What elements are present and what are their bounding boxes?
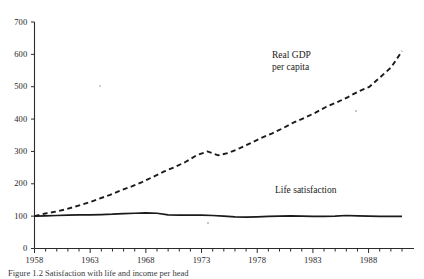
y-axis-tick-label: 200 <box>0 178 28 188</box>
series-line-real-gdp-per-capita <box>35 51 403 216</box>
y-axis-tick-label: 400 <box>0 114 28 124</box>
x-axis-tick-label: 1958 <box>13 255 57 265</box>
x-axis-tick-label: 1983 <box>291 255 335 265</box>
chart-axes <box>31 22 414 253</box>
figure-caption-label: Figure 1.2 <box>8 268 43 278</box>
x-axis-tick-label: 1968 <box>124 255 168 265</box>
figure-caption: Figure 1.2 Satisfaction with life and in… <box>8 268 418 278</box>
x-axis-tick-label: 1988 <box>347 255 391 265</box>
annotation-real-gdp-line2: per capita <box>272 62 311 74</box>
chart-plot-area <box>0 0 424 279</box>
annotation-real-gdp-line1: Real GDP <box>272 50 311 62</box>
x-axis-tick-label: 1973 <box>180 255 224 265</box>
annotation-life-satisfaction-text: Life satisfaction <box>275 185 336 197</box>
x-axis-ticks <box>35 249 403 254</box>
annotation-life-satisfaction: Life satisfaction <box>275 185 336 197</box>
y-axis-tick-label: 700 <box>0 17 28 27</box>
series-line-life-satisfaction <box>35 213 403 217</box>
y-axis-tick-label: 300 <box>0 146 28 156</box>
annotation-real-gdp-per-capita: Real GDP per capita <box>272 50 311 73</box>
chart-series-group <box>35 51 403 217</box>
x-axis-tick-label: 1963 <box>68 255 112 265</box>
figure-container: 0100200300400500600700 19581963196819731… <box>0 0 424 279</box>
y-axis-tick-label: 600 <box>0 49 28 59</box>
y-axis-tick-label: 0 <box>0 243 28 253</box>
y-axis-tick-label: 100 <box>0 211 28 221</box>
y-axis-tick-label: 500 <box>0 81 28 91</box>
x-axis-tick-label: 1978 <box>235 255 279 265</box>
figure-caption-text: Satisfaction with life and income per he… <box>45 268 189 278</box>
